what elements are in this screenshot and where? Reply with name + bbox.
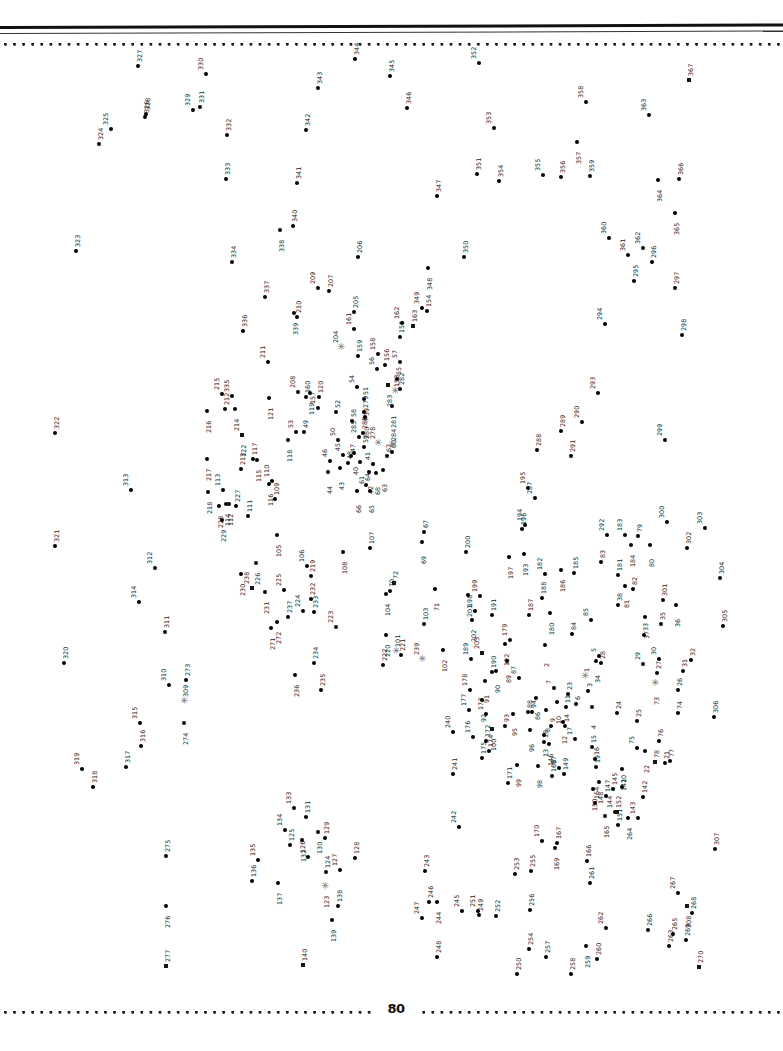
dot-number-label: 182 bbox=[537, 558, 543, 570]
dot-marker-icon bbox=[334, 410, 338, 414]
dot-marker-icon bbox=[477, 61, 481, 65]
dot-marker-icon bbox=[316, 286, 320, 290]
dot-number-label: 262 bbox=[598, 912, 604, 924]
dot-number-label: 364 bbox=[657, 190, 663, 202]
dot-number-label: 348 bbox=[427, 278, 433, 290]
dot-number-label: 224 bbox=[295, 595, 301, 607]
dot-marker-icon bbox=[225, 133, 229, 137]
dot-number-label: 167 bbox=[556, 827, 562, 839]
dot-marker-icon bbox=[632, 279, 636, 283]
dot-number-label: 68 bbox=[375, 487, 381, 495]
dot-number-label: 334 bbox=[231, 246, 237, 258]
dot-number-label: 231 bbox=[264, 602, 270, 614]
dot-number-label: 244 bbox=[436, 912, 442, 924]
dot-marker-icon bbox=[163, 630, 167, 634]
dot-number-label: 6 bbox=[575, 696, 581, 700]
dot-number-label: 81 bbox=[624, 600, 630, 608]
dot-marker-icon bbox=[282, 588, 286, 592]
dot-number-label: 45 bbox=[335, 443, 341, 451]
dot-number-label: 84 bbox=[571, 622, 577, 630]
dot-number-label: 213 bbox=[240, 453, 246, 465]
dot-marker-icon bbox=[515, 972, 519, 976]
dot-number-label: 145 bbox=[612, 773, 618, 785]
dot-marker-icon bbox=[595, 957, 599, 961]
dot-number-label: 180 bbox=[549, 623, 555, 635]
dot-marker-icon bbox=[647, 113, 651, 117]
dot-number-label: 302 bbox=[686, 532, 692, 544]
dot-number-label: 279 bbox=[363, 396, 369, 408]
dot-marker-icon bbox=[685, 546, 689, 550]
dot-number-label: 321 bbox=[54, 530, 60, 542]
dot-marker-icon bbox=[631, 587, 635, 591]
dot-marker-icon bbox=[97, 142, 101, 146]
dot-number-label: 275 bbox=[165, 840, 171, 852]
dot-marker-icon bbox=[615, 711, 619, 715]
dot-number-label: 316 bbox=[140, 730, 146, 742]
dot-number-label: 203 bbox=[474, 637, 480, 649]
dot-number-label: 362 bbox=[635, 232, 641, 244]
dot-marker-icon bbox=[574, 702, 578, 706]
dot-number-label: 260 bbox=[596, 943, 602, 955]
dot-number-label: 137 bbox=[277, 893, 283, 905]
dot-marker-icon bbox=[221, 488, 225, 492]
dot-marker-icon bbox=[352, 327, 356, 331]
dot-marker-icon bbox=[636, 534, 640, 538]
dot-marker-icon bbox=[384, 633, 388, 637]
dot-marker-icon bbox=[527, 613, 531, 617]
dot-marker-icon bbox=[62, 661, 66, 665]
dot-marker-icon bbox=[129, 488, 133, 492]
dot-number-label: 330 bbox=[198, 58, 204, 70]
dot-number-label: 354 bbox=[498, 165, 504, 177]
dot-marker-icon bbox=[328, 459, 332, 463]
dot-number-label: 312 bbox=[147, 552, 153, 564]
dot-number-label: 225 bbox=[276, 574, 282, 586]
dot-marker-icon bbox=[680, 333, 684, 337]
dot-number-label: 3 bbox=[587, 683, 593, 687]
dot-number-label: 27 bbox=[656, 661, 662, 669]
dot-marker-icon bbox=[580, 420, 584, 424]
dot-marker-icon bbox=[357, 435, 361, 439]
dot-marker-icon bbox=[594, 659, 598, 663]
dot-number-label: 328 bbox=[145, 98, 151, 110]
dot-number-label: 77 bbox=[669, 749, 675, 757]
dot-marker-icon bbox=[559, 429, 563, 433]
dot-number-label: 317 bbox=[125, 751, 131, 763]
dot-number-label: 229 bbox=[221, 530, 227, 542]
dot-number-label: 324 bbox=[98, 128, 104, 140]
dot-marker-icon bbox=[494, 669, 498, 673]
dot-number-label: 290 bbox=[574, 406, 580, 418]
dot-marker-icon bbox=[464, 550, 468, 554]
dot-number-label: 183 bbox=[617, 519, 623, 531]
dot-marker-icon bbox=[665, 520, 669, 524]
dot-number-label: 11 bbox=[565, 695, 571, 703]
dot-marker-icon bbox=[296, 390, 300, 394]
dot-number-label: 66 bbox=[356, 505, 362, 513]
dot-number-label: 200 bbox=[465, 536, 471, 548]
dot-number-label: 295 bbox=[633, 265, 639, 277]
dot-marker-icon bbox=[542, 740, 546, 744]
dot-marker-icon bbox=[383, 363, 387, 367]
dot-number-label: 237 bbox=[287, 601, 293, 613]
dot-marker-icon bbox=[427, 900, 431, 904]
dot-number-label: 106 bbox=[299, 550, 305, 562]
dot-number-label: 83 bbox=[600, 550, 606, 558]
dot-number-label: 221 bbox=[400, 639, 406, 651]
dot-marker-icon bbox=[137, 600, 141, 604]
dot-marker-icon bbox=[663, 761, 667, 765]
dot-marker-icon bbox=[564, 705, 568, 709]
dot-number-label: 274 bbox=[183, 733, 189, 745]
dot-number-label: 196 bbox=[521, 513, 527, 525]
dot-number-label: 344 bbox=[354, 43, 360, 55]
dot-marker-icon bbox=[371, 462, 375, 466]
dot-number-label: 72 bbox=[393, 571, 399, 579]
dot-marker-icon bbox=[585, 859, 589, 863]
dot-number-label: 217 bbox=[206, 469, 212, 481]
dot-marker-icon bbox=[138, 721, 142, 725]
dot-marker-icon bbox=[569, 972, 573, 976]
dot-marker-icon bbox=[589, 618, 593, 622]
dot-marker-icon bbox=[543, 572, 547, 576]
dot-number-label: 273 bbox=[185, 664, 191, 676]
dot-number-label: 187 bbox=[528, 599, 534, 611]
dot-number-label: 142 bbox=[642, 781, 648, 793]
dot-number-label: 246 bbox=[428, 886, 434, 898]
